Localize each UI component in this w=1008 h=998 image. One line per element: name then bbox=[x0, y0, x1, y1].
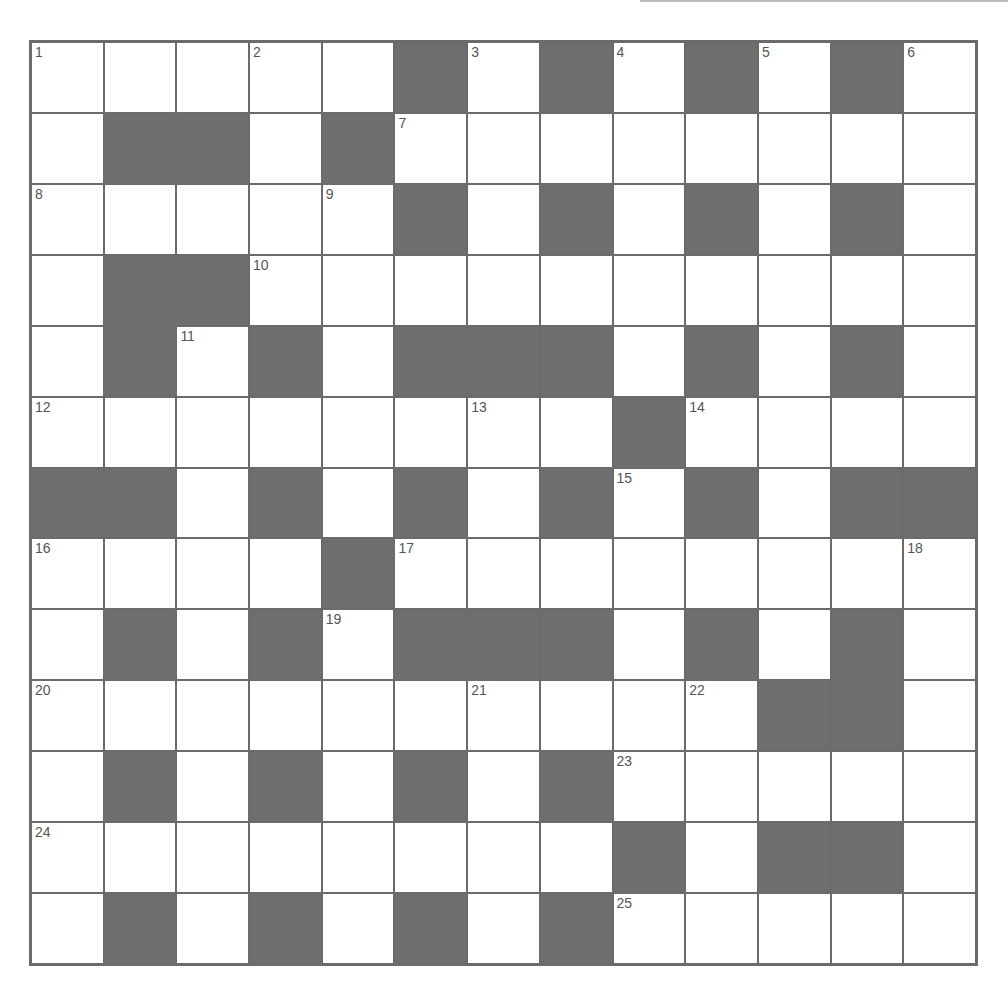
answer-cell[interactable] bbox=[686, 114, 757, 183]
answer-cell[interactable] bbox=[759, 539, 830, 608]
answer-cell[interactable] bbox=[32, 610, 103, 679]
answer-cell[interactable] bbox=[105, 43, 176, 112]
answer-cell[interactable]: 23 bbox=[614, 752, 685, 821]
answer-cell[interactable] bbox=[904, 327, 975, 396]
answer-cell[interactable] bbox=[323, 894, 394, 963]
answer-cell[interactable] bbox=[541, 681, 612, 750]
answer-cell[interactable]: 8 bbox=[32, 185, 103, 254]
answer-cell[interactable] bbox=[468, 752, 539, 821]
answer-cell[interactable] bbox=[614, 185, 685, 254]
answer-cell[interactable] bbox=[395, 256, 466, 325]
answer-cell[interactable] bbox=[686, 894, 757, 963]
answer-cell[interactable]: 15 bbox=[614, 469, 685, 538]
answer-cell[interactable] bbox=[686, 539, 757, 608]
answer-cell[interactable] bbox=[904, 681, 975, 750]
answer-cell[interactable] bbox=[904, 610, 975, 679]
answer-cell[interactable] bbox=[32, 752, 103, 821]
answer-cell[interactable]: 12 bbox=[32, 398, 103, 467]
answer-cell[interactable] bbox=[177, 43, 248, 112]
answer-cell[interactable] bbox=[541, 398, 612, 467]
answer-cell[interactable] bbox=[105, 398, 176, 467]
answer-cell[interactable] bbox=[541, 823, 612, 892]
answer-cell[interactable]: 25 bbox=[614, 894, 685, 963]
answer-cell[interactable] bbox=[614, 114, 685, 183]
answer-cell[interactable] bbox=[686, 256, 757, 325]
answer-cell[interactable] bbox=[177, 681, 248, 750]
answer-cell[interactable]: 2 bbox=[250, 43, 321, 112]
answer-cell[interactable] bbox=[832, 539, 903, 608]
answer-cell[interactable]: 3 bbox=[468, 43, 539, 112]
answer-cell[interactable] bbox=[32, 894, 103, 963]
answer-cell[interactable] bbox=[105, 185, 176, 254]
answer-cell[interactable] bbox=[759, 398, 830, 467]
answer-cell[interactable]: 4 bbox=[614, 43, 685, 112]
answer-cell[interactable] bbox=[395, 681, 466, 750]
answer-cell[interactable] bbox=[904, 114, 975, 183]
answer-cell[interactable] bbox=[832, 114, 903, 183]
answer-cell[interactable]: 22 bbox=[686, 681, 757, 750]
answer-cell[interactable]: 17 bbox=[395, 539, 466, 608]
answer-cell[interactable] bbox=[177, 894, 248, 963]
answer-cell[interactable]: 9 bbox=[323, 185, 394, 254]
answer-cell[interactable] bbox=[686, 752, 757, 821]
answer-cell[interactable] bbox=[105, 539, 176, 608]
answer-cell[interactable] bbox=[323, 681, 394, 750]
answer-cell[interactable] bbox=[177, 752, 248, 821]
answer-cell[interactable] bbox=[686, 823, 757, 892]
answer-cell[interactable] bbox=[759, 256, 830, 325]
answer-cell[interactable] bbox=[250, 539, 321, 608]
answer-cell[interactable] bbox=[904, 185, 975, 254]
answer-cell[interactable] bbox=[250, 114, 321, 183]
answer-cell[interactable] bbox=[541, 256, 612, 325]
answer-cell[interactable] bbox=[759, 894, 830, 963]
answer-cell[interactable]: 21 bbox=[468, 681, 539, 750]
answer-cell[interactable] bbox=[105, 823, 176, 892]
answer-cell[interactable] bbox=[177, 610, 248, 679]
answer-cell[interactable] bbox=[32, 114, 103, 183]
answer-cell[interactable] bbox=[468, 256, 539, 325]
answer-cell[interactable] bbox=[323, 398, 394, 467]
answer-cell[interactable] bbox=[177, 469, 248, 538]
answer-cell[interactable] bbox=[177, 398, 248, 467]
answer-cell[interactable]: 11 bbox=[177, 327, 248, 396]
answer-cell[interactable] bbox=[759, 610, 830, 679]
answer-cell[interactable] bbox=[904, 823, 975, 892]
answer-cell[interactable] bbox=[323, 752, 394, 821]
answer-cell[interactable] bbox=[32, 256, 103, 325]
answer-cell[interactable] bbox=[614, 610, 685, 679]
answer-cell[interactable] bbox=[395, 823, 466, 892]
answer-cell[interactable] bbox=[541, 539, 612, 608]
answer-cell[interactable] bbox=[904, 256, 975, 325]
answer-cell[interactable] bbox=[541, 114, 612, 183]
answer-cell[interactable] bbox=[105, 681, 176, 750]
answer-cell[interactable] bbox=[832, 894, 903, 963]
answer-cell[interactable]: 14 bbox=[686, 398, 757, 467]
answer-cell[interactable]: 16 bbox=[32, 539, 103, 608]
answer-cell[interactable] bbox=[323, 823, 394, 892]
answer-cell[interactable] bbox=[614, 681, 685, 750]
answer-cell[interactable] bbox=[250, 681, 321, 750]
answer-cell[interactable] bbox=[250, 398, 321, 467]
answer-cell[interactable]: 19 bbox=[323, 610, 394, 679]
answer-cell[interactable] bbox=[468, 894, 539, 963]
answer-cell[interactable]: 1 bbox=[32, 43, 103, 112]
answer-cell[interactable]: 7 bbox=[395, 114, 466, 183]
answer-cell[interactable] bbox=[832, 752, 903, 821]
answer-cell[interactable] bbox=[759, 185, 830, 254]
answer-cell[interactable] bbox=[614, 256, 685, 325]
answer-cell[interactable] bbox=[759, 327, 830, 396]
answer-cell[interactable] bbox=[759, 114, 830, 183]
answer-cell[interactable] bbox=[614, 539, 685, 608]
answer-cell[interactable] bbox=[177, 823, 248, 892]
answer-cell[interactable] bbox=[32, 327, 103, 396]
answer-cell[interactable] bbox=[759, 469, 830, 538]
answer-cell[interactable] bbox=[177, 185, 248, 254]
answer-cell[interactable]: 18 bbox=[904, 539, 975, 608]
answer-cell[interactable]: 13 bbox=[468, 398, 539, 467]
answer-cell[interactable] bbox=[832, 398, 903, 467]
answer-cell[interactable]: 5 bbox=[759, 43, 830, 112]
answer-cell[interactable]: 20 bbox=[32, 681, 103, 750]
answer-cell[interactable] bbox=[323, 256, 394, 325]
answer-cell[interactable]: 10 bbox=[250, 256, 321, 325]
answer-cell[interactable] bbox=[323, 469, 394, 538]
